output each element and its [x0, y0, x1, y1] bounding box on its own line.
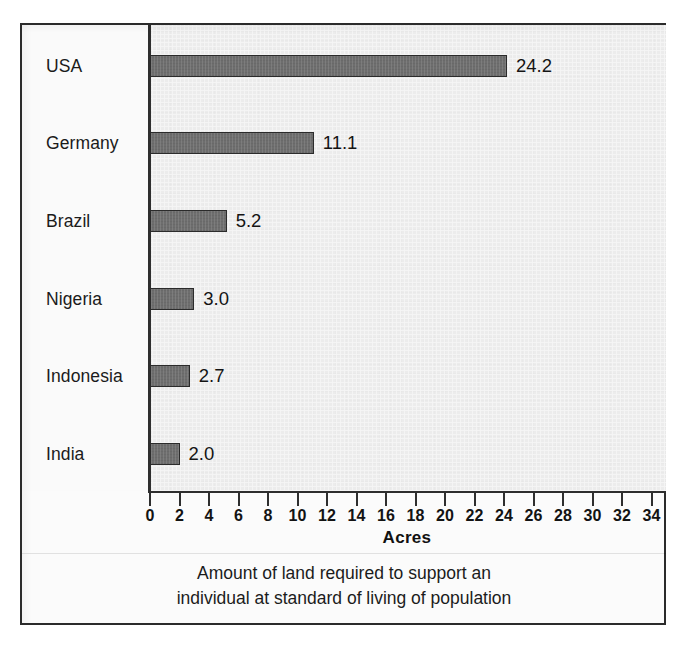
bar-value-indonesia: 2.7	[199, 365, 225, 387]
x-tick-mark	[297, 493, 299, 506]
bar-row: USA24.2	[22, 27, 666, 105]
bar-value-usa: 24.2	[516, 55, 552, 77]
x-tick-mark	[533, 493, 535, 506]
caption-divider	[22, 553, 666, 554]
bar-value-nigeria: 3.0	[203, 288, 229, 310]
x-axis-title: Acres	[148, 528, 666, 548]
bar-brazil	[150, 210, 227, 232]
bar-value-india: 2.0	[189, 443, 215, 465]
caption-line-1: Amount of land required to support an	[22, 561, 666, 586]
x-tick-label: 20	[436, 507, 454, 525]
bar-value-germany: 11.1	[323, 132, 358, 154]
x-tick-mark	[267, 493, 269, 506]
x-tick-label: 18	[407, 507, 425, 525]
x-tick-label: 12	[318, 507, 336, 525]
bar-usa	[150, 55, 507, 77]
x-tick-label: 0	[146, 507, 155, 525]
x-tick-label: 34	[643, 507, 661, 525]
x-tick-mark	[385, 493, 387, 506]
x-tick-mark	[562, 493, 564, 506]
bar-value-brazil: 5.2	[236, 210, 262, 232]
x-tick-label: 4	[205, 507, 214, 525]
category-label-indonesia: Indonesia	[46, 366, 123, 387]
x-tick-label: 32	[613, 507, 631, 525]
category-label-brazil: Brazil	[46, 210, 90, 231]
x-tick-label: 30	[584, 507, 602, 525]
bar-india	[150, 443, 180, 465]
bar-row: Nigeria3.0	[22, 260, 666, 338]
chart-figure: USA24.2Germany11.1Brazil5.2Nigeria3.0Ind…	[20, 23, 666, 625]
x-tick-mark	[356, 493, 358, 506]
bar-row: Indonesia2.7	[22, 337, 666, 415]
x-tick-label: 24	[495, 507, 513, 525]
x-tick-mark	[149, 493, 151, 506]
x-tick-mark	[474, 493, 476, 506]
category-label-usa: USA	[46, 55, 82, 76]
x-tick-label: 16	[377, 507, 395, 525]
category-label-nigeria: Nigeria	[46, 288, 102, 309]
bar-nigeria	[150, 288, 194, 310]
x-tick-mark	[651, 493, 653, 506]
category-label-india: India	[46, 443, 84, 464]
x-tick-label: 26	[525, 507, 543, 525]
x-tick-mark	[238, 493, 240, 506]
x-tick-label: 10	[289, 507, 307, 525]
bar-row: Brazil5.2	[22, 182, 666, 260]
x-tick-label: 2	[175, 507, 184, 525]
bar-indonesia	[150, 365, 190, 387]
figure-caption: Amount of land required to support an in…	[22, 561, 666, 611]
x-tick-label: 22	[466, 507, 484, 525]
x-tick-mark	[326, 493, 328, 506]
x-tick-label: 14	[348, 507, 366, 525]
x-tick-mark	[208, 493, 210, 506]
x-tick-mark	[179, 493, 181, 506]
x-tick-mark	[621, 493, 623, 506]
x-tick-label: 6	[234, 507, 243, 525]
x-tick-label: 28	[554, 507, 572, 525]
x-tick-label: 8	[264, 507, 273, 525]
x-tick-mark	[592, 493, 594, 506]
x-tick-mark	[503, 493, 505, 506]
bar-row: Germany11.1	[22, 105, 666, 183]
category-label-germany: Germany	[46, 133, 119, 154]
x-tick-mark	[415, 493, 417, 506]
x-tick-mark	[444, 493, 446, 506]
caption-line-2: individual at standard of living of popu…	[22, 586, 666, 611]
bar-germany	[150, 132, 314, 154]
bar-row: India2.0	[22, 415, 666, 493]
